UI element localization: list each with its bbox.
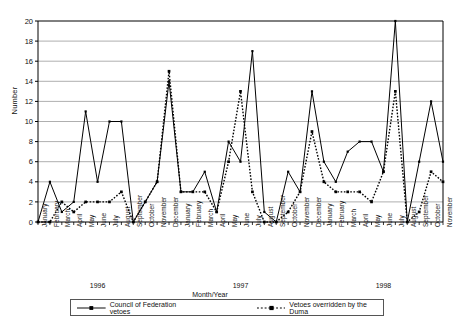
x-axis-tick-label: January bbox=[184, 204, 191, 227]
x-axis-tick-label: February bbox=[53, 201, 60, 227]
svg-text:12: 12 bbox=[25, 97, 33, 106]
x-axis-tick-label: February bbox=[338, 201, 345, 227]
x-axis-tick-label: October bbox=[434, 204, 441, 227]
legend-item-council: Council of Federation vetoes bbox=[77, 301, 195, 315]
x-axis-tick-label: March bbox=[207, 209, 214, 227]
x-axis-tick-label: July bbox=[112, 215, 119, 227]
x-axis-tick-label: January bbox=[326, 204, 333, 227]
x-axis-tick-label: July bbox=[398, 215, 405, 227]
x-axis-tick-label: September bbox=[422, 195, 429, 227]
x-axis-tick-label: September bbox=[279, 195, 286, 227]
x-axis-year-label: 1998 bbox=[363, 282, 403, 289]
x-axis-tick-label: April bbox=[76, 214, 83, 227]
x-axis-year-label: 1996 bbox=[78, 282, 118, 289]
x-axis-tick-label: March bbox=[350, 209, 357, 227]
svg-text:16: 16 bbox=[25, 57, 33, 66]
solid-line-marker bbox=[77, 304, 106, 312]
svg-text:0: 0 bbox=[29, 218, 33, 227]
x-axis-tick-label: December bbox=[172, 197, 179, 227]
x-axis-tick-label: May bbox=[231, 215, 238, 227]
x-axis-tick-label: August bbox=[410, 207, 417, 228]
x-axis-tick-label: November bbox=[303, 197, 310, 227]
legend-label-duma: Vetoes overridden by the Duma bbox=[289, 301, 383, 315]
x-axis-tick-label: July bbox=[255, 215, 262, 227]
x-axis-tick-label: June bbox=[243, 213, 250, 227]
x-axis-tick-label: October bbox=[291, 204, 298, 227]
x-axis-tick-label: January bbox=[41, 204, 48, 227]
x-axis-tick-label: August bbox=[124, 207, 131, 228]
legend-label-council: Council of Federation vetoes bbox=[110, 301, 195, 315]
x-axis-tick-label: April bbox=[219, 214, 226, 227]
x-axis-tick-label: May bbox=[374, 215, 381, 227]
svg-text:20: 20 bbox=[25, 17, 33, 26]
x-axis-tick-label: August bbox=[267, 207, 274, 228]
x-axis-tick-label: November bbox=[446, 197, 453, 227]
chart-legend: Council of Federation vetoes Vetoes over… bbox=[70, 299, 384, 316]
svg-text:2: 2 bbox=[29, 198, 33, 207]
x-axis-tick-label: December bbox=[315, 197, 322, 227]
svg-text:8: 8 bbox=[29, 137, 33, 146]
x-axis-tick-label: September bbox=[136, 195, 143, 227]
dotted-line-marker bbox=[257, 304, 286, 312]
legend-item-duma: Vetoes overridden by the Duma bbox=[257, 301, 383, 315]
x-axis-tick-label: June bbox=[386, 213, 393, 227]
svg-text:4: 4 bbox=[29, 177, 33, 186]
svg-text:14: 14 bbox=[25, 77, 33, 86]
x-axis-tick-label: March bbox=[64, 209, 71, 227]
x-axis-tick-label: May bbox=[88, 215, 95, 227]
x-axis-year-label: 1997 bbox=[221, 282, 261, 289]
x-axis-tick-label: June bbox=[100, 213, 107, 227]
x-axis-tick-label: April bbox=[362, 214, 369, 227]
x-axis-tick-label: November bbox=[160, 197, 167, 227]
x-axis-tick-label: October bbox=[148, 204, 155, 227]
svg-text:18: 18 bbox=[25, 37, 33, 46]
svg-text:6: 6 bbox=[29, 157, 33, 166]
svg-text:10: 10 bbox=[25, 117, 33, 126]
x-axis-tick-label: February bbox=[195, 201, 202, 227]
